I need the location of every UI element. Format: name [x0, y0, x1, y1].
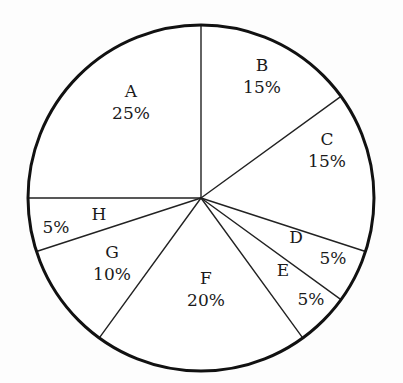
slice-label-value-d: 5%: [320, 248, 347, 268]
pie-chart: A25%B15%C15%D5%E5%F20%G10%H5%: [0, 0, 403, 383]
slice-label-name-h: H: [92, 204, 107, 224]
pie-chart-canvas: [0, 0, 403, 383]
slice-label-value-h: 5%: [43, 217, 70, 237]
slice-label-name-e: E: [277, 260, 289, 280]
pie-slice-a[interactable]: [28, 25, 201, 198]
slice-label-value-e: 5%: [298, 289, 325, 309]
slice-label-name-d: D: [289, 227, 303, 247]
